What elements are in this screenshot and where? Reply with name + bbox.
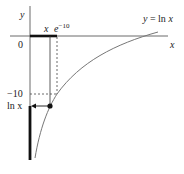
ln-curve <box>35 32 158 158</box>
x-axis-label: x <box>169 39 175 50</box>
curve-label: y = ln x <box>142 13 173 24</box>
x-point-label: x <box>43 23 49 34</box>
arrow-head-icon <box>31 104 36 109</box>
e-neg10-label: e−10 <box>54 22 70 34</box>
curve-point <box>47 103 52 108</box>
neg10-tick-label: −10 <box>7 88 23 99</box>
y-axis-label: y <box>19 9 25 20</box>
ln-x-label: ln x <box>7 100 22 111</box>
ln-graph: y x 0 x e−10 −10 ln x y = ln x <box>0 0 184 174</box>
origin-label: 0 <box>18 39 23 50</box>
